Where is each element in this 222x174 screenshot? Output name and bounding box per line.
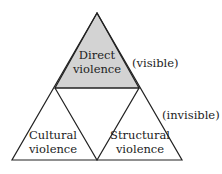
structural-violence-label: Structural violence (110, 128, 170, 156)
direct-line2: violence (72, 62, 122, 76)
visible-annotation: (visible) (132, 56, 179, 70)
structural-line1: Structural (110, 128, 170, 142)
direct-violence-label: Direct violence (72, 48, 122, 76)
cultural-line1: Cultural (28, 128, 78, 142)
direct-line1: Direct (72, 48, 122, 62)
structural-line2: violence (110, 142, 170, 156)
cultural-violence-label: Cultural violence (28, 128, 78, 156)
invisible-annotation: (invisible) (162, 108, 220, 122)
cultural-line2: violence (28, 142, 78, 156)
